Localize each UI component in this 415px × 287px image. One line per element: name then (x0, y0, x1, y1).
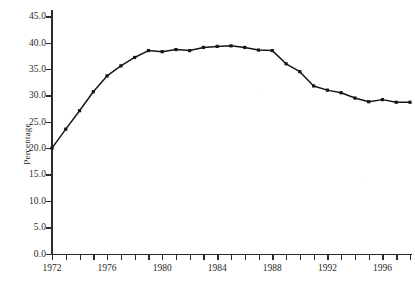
series-data-point (174, 48, 177, 51)
series-data-point (298, 70, 301, 73)
data-series-line (0, 0, 415, 287)
series-data-point (119, 64, 122, 67)
series-data-point (271, 49, 274, 52)
figure-caption (86, 277, 386, 287)
series-data-point (92, 90, 95, 93)
series-data-point (257, 48, 260, 51)
series-data-point (133, 56, 136, 59)
series-data-point (326, 89, 329, 92)
series-data-point (147, 49, 150, 52)
series-data-point (381, 98, 384, 101)
series-data-point (312, 84, 315, 87)
series-data-point (50, 147, 53, 150)
series-data-point (64, 128, 67, 131)
series-data-point (395, 101, 398, 104)
series-data-point (243, 46, 246, 49)
series-data-point (202, 46, 205, 49)
series-data-point (229, 44, 232, 47)
series-markers (50, 44, 411, 149)
chart-container: Percentage 0.05.010.015.020.025.030.035.… (0, 0, 415, 287)
series-data-point (340, 91, 343, 94)
series-data-point (105, 74, 108, 77)
series-data-point (161, 50, 164, 53)
series-data-point (353, 96, 356, 99)
series-data-point (367, 100, 370, 103)
series-data-point (188, 49, 191, 52)
series-data-point (78, 109, 81, 112)
series-data-point (216, 45, 219, 48)
series-data-point (408, 101, 411, 104)
series-data-point (284, 62, 287, 65)
